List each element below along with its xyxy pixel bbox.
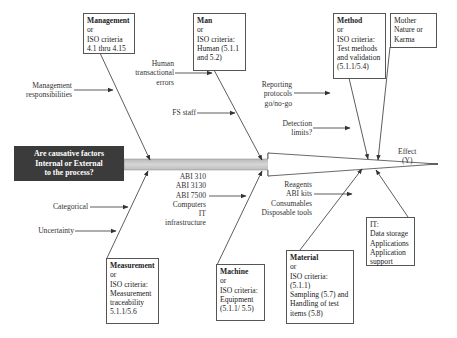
cause-detection-limits: Detection limits? xyxy=(268,119,312,138)
cause-line: ABI 7500 xyxy=(150,191,206,200)
category-box-measurement: Measurement or ISO criteria: Measurement… xyxy=(106,258,159,324)
category-line: or xyxy=(290,262,350,271)
cause-line: limits? xyxy=(268,128,312,137)
cause-line: protocols xyxy=(252,89,292,98)
causative-factors-question: Are causative factors Internal or Extern… xyxy=(14,146,124,181)
cause-line: FS staff xyxy=(160,108,196,117)
cause-line: Computers xyxy=(150,200,206,209)
category-line: and 5.2) xyxy=(197,53,242,62)
category-line: (5.1.1) xyxy=(290,281,350,290)
question-line-1: Are causative factors xyxy=(14,149,124,159)
category-line: traceability xyxy=(110,298,155,307)
cause-line: Consumables xyxy=(246,199,312,208)
category-line: or xyxy=(110,270,155,279)
cause-human-transactional-errors: Human transactional errors xyxy=(126,59,174,87)
effect-title: Effect xyxy=(398,147,416,156)
category-line: 5.1.1/5.6 xyxy=(110,307,155,316)
category-title: Material xyxy=(290,253,350,262)
cause-uncertainty: Uncertainty xyxy=(20,226,74,235)
question-line-3: to the process? xyxy=(14,168,124,178)
cause-line: IT xyxy=(150,209,206,218)
cause-equipment-list: ABI 310 ABI 3130 ABI 7500 Computers IT i… xyxy=(150,172,206,228)
category-line: Nature or xyxy=(394,25,433,34)
category-box-management: Management or ISO criteria 4.1 thru 4.15 xyxy=(83,13,135,54)
category-title: Management xyxy=(87,16,131,25)
category-line: ISO criteria: xyxy=(337,35,382,44)
category-line: or xyxy=(87,25,131,34)
category-line: ISO criteria xyxy=(87,35,131,44)
category-title: Man xyxy=(197,16,242,25)
category-line: or xyxy=(220,276,261,285)
cause-line: ABI kits xyxy=(246,189,312,198)
category-line: Mother xyxy=(394,16,433,25)
cause-line: Uncertainty xyxy=(20,226,74,235)
cause-line: Reporting xyxy=(252,80,292,89)
category-line: (5.1.1/5.4) xyxy=(337,62,382,71)
cause-line: infrastructure xyxy=(150,218,206,227)
category-line: IT: xyxy=(370,220,411,229)
category-box-mother-nature: Mother Nature or Karma xyxy=(390,13,437,48)
category-line: and validation xyxy=(337,53,382,62)
cause-fs-staff: FS staff xyxy=(160,108,196,117)
cause-line: transactional xyxy=(126,68,174,77)
category-line: Equipment xyxy=(220,295,261,304)
category-line: Sampling (5.7) and xyxy=(290,290,350,299)
cause-material-supplies: Reagents ABI kits Consumables Disposable… xyxy=(246,180,312,217)
cause-reporting-protocols: Reporting protocols go/no-go xyxy=(252,80,292,108)
category-box-machine: Machine or ISO criteria: Equipment (5.1.… xyxy=(216,264,265,321)
cause-line: Human xyxy=(126,59,174,68)
cause-line: responsibilities xyxy=(18,90,72,99)
cause-line: ABI 3130 xyxy=(150,181,206,190)
effect-label: Effect (Y) xyxy=(398,147,416,166)
cause-management-responsibilities: Management responsibilities xyxy=(18,81,72,100)
category-line: items (5.8) xyxy=(290,309,350,318)
category-line: Human (5.1.1 xyxy=(197,44,242,53)
category-line: 4.1 thru 4.15 xyxy=(87,44,131,53)
cause-categorical: Categorical xyxy=(30,202,88,211)
category-line: support xyxy=(370,257,411,266)
effect-symbol: (Y) xyxy=(398,156,416,165)
category-line: ISO criteria: xyxy=(110,280,155,289)
category-box-method: Method or ISO criteria: Test methods and… xyxy=(333,13,386,79)
cause-line: go/no-go xyxy=(252,99,292,108)
category-line: or xyxy=(337,25,382,34)
category-line: (5.1.1/ 5.5) xyxy=(220,304,261,313)
category-line: Karma xyxy=(394,35,433,44)
category-line: Data storage xyxy=(370,229,411,238)
cause-line: Management xyxy=(18,81,72,90)
category-line: ISO criteria: xyxy=(197,35,242,44)
category-line: ISO criteria: xyxy=(220,286,261,295)
category-box-it: IT: Data storage Applications Applicatio… xyxy=(366,217,415,266)
category-title: Measurement xyxy=(110,261,155,270)
category-line: or xyxy=(197,25,242,34)
category-title: Method xyxy=(337,16,382,25)
cause-line: Disposable tools xyxy=(246,208,312,217)
category-box-material: Material or ISO criteria: (5.1.1) Sampli… xyxy=(286,250,354,324)
category-line: Measurement xyxy=(110,289,155,298)
question-line-2: Internal or External xyxy=(14,159,124,169)
cause-line: Detection xyxy=(268,119,312,128)
category-line: ISO criteria: xyxy=(290,272,350,281)
category-line: Applications xyxy=(370,239,411,248)
cause-line: Categorical xyxy=(30,202,88,211)
category-line: Test methods xyxy=(337,44,382,53)
cause-line: errors xyxy=(126,78,174,87)
cause-line: ABI 310 xyxy=(150,172,206,181)
category-title: Machine xyxy=(220,267,261,276)
category-line: Handling of test xyxy=(290,299,350,308)
category-box-man: Man or ISO criteria: Human (5.1.1 and 5.… xyxy=(193,13,246,71)
category-line: Application xyxy=(370,248,411,257)
cause-line: Reagents xyxy=(246,180,312,189)
